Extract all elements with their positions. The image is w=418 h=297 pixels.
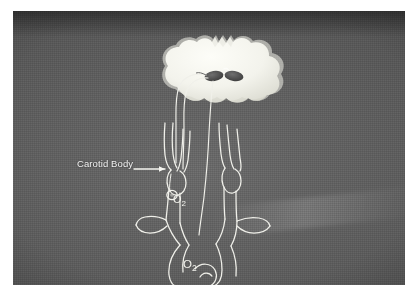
- common-carotid-artery-right: [224, 187, 225, 219]
- subclavian-artery-left: [136, 217, 166, 225]
- internal-carotid-artery-right: [219, 123, 225, 168]
- subclavian-artery-right-lower: [237, 226, 270, 233]
- oxygen-labels: O2 O2: [173, 193, 197, 273]
- slide-image: O2 O2 Carotid Body: [13, 11, 405, 285]
- brachiocephalic-trunk-right: [216, 219, 225, 244]
- pulmonary-trunk-inner: [200, 273, 212, 277]
- vagus-nerve: [199, 81, 213, 235]
- brachiocephalic-trunk-right-inner: [231, 221, 237, 246]
- brachiocephalic-trunk-left: [166, 220, 180, 245]
- common-carotid-artery-right-medial: [236, 191, 237, 221]
- aortic-arch-right-wall: [212, 244, 222, 285]
- external-carotid-artery-right: [237, 129, 241, 171]
- external-carotid-artery-left: [177, 129, 183, 171]
- subclavian-artery-left-lower: [136, 225, 167, 233]
- o2-label-aortic: O2: [183, 258, 197, 273]
- internal-carotid-artery-left: [164, 123, 171, 170]
- carotid-sinus-right: [222, 168, 241, 193]
- o2-label-aortic-text: O: [183, 258, 192, 270]
- subclavian-artery-right: [237, 218, 270, 226]
- o2-label-aortic-sub: 2: [192, 263, 197, 273]
- sinus-nerve-twig: [170, 174, 171, 191]
- pulmonary-trunk: [195, 264, 216, 285]
- ascending-aorta: [231, 246, 236, 276]
- external-carotid-artery-left-lateral: [184, 131, 190, 172]
- anatomical-illustration: O2 O2: [13, 11, 405, 285]
- o2-label-carotid-sub: 2: [182, 199, 187, 208]
- carotid-body-label: Carotid Body: [77, 158, 133, 169]
- figure-frame: O2 O2 Carotid Body: [0, 0, 418, 297]
- internal-carotid-artery-right-medial: [227, 125, 234, 169]
- aortic-arch-outer: [169, 245, 180, 285]
- brachiocephalic-trunk-left-inner: [180, 223, 189, 245]
- leader-line-carotid-body: [134, 166, 165, 172]
- medulla-oblongata: [162, 35, 284, 103]
